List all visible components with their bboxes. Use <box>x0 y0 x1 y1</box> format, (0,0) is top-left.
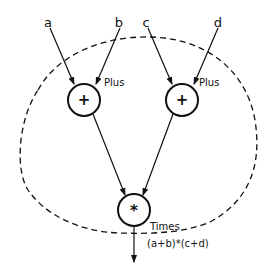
plus-left-label: Plus <box>104 77 124 88</box>
edge-a-plus-left <box>50 28 74 84</box>
edge-b-plus-left <box>96 28 120 84</box>
plus-right-symbol: + <box>176 91 189 109</box>
plus-left-symbol: + <box>78 91 91 109</box>
times-symbol: * <box>130 202 138 220</box>
times-label: Times <box>149 221 180 232</box>
input-a-label: a <box>44 15 52 30</box>
dataflow-diagram: + + * Plus Plus Times a b c d (a+b)*(c+d… <box>0 0 269 278</box>
edge-plus-right-times <box>143 114 173 195</box>
edge-d-plus-right <box>194 28 218 84</box>
input-b-label: b <box>115 15 123 30</box>
plus-right-label: Plus <box>199 77 219 88</box>
edge-plus-left-times <box>93 114 125 195</box>
edge-c-plus-right <box>148 28 172 84</box>
input-c-label: c <box>142 15 149 30</box>
input-d-label: d <box>214 15 222 30</box>
output-label: (a+b)*(c+d) <box>147 238 209 249</box>
